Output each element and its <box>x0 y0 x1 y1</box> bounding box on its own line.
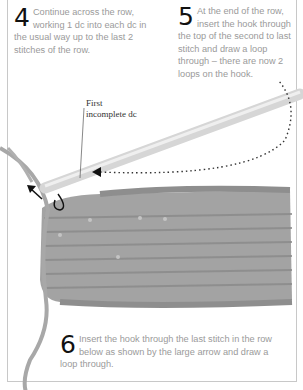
label-leader-line <box>80 108 84 178</box>
step-number: 4 <box>14 7 30 29</box>
step-text: Insert the hook through the last stitch … <box>60 334 272 369</box>
step-text: At the end of the row, insert the hook t… <box>178 6 291 79</box>
step-number: 5 <box>178 6 194 28</box>
step-number: 6 <box>60 334 76 356</box>
step-4: 4 Continue across the row, working 1 dc … <box>14 6 149 56</box>
step-6: 6 Insert the hook through the last stitc… <box>60 333 285 371</box>
stitch-label: First incomplete dc <box>86 98 137 120</box>
step-5: 5 At the end of the row, insert the hook… <box>178 5 296 81</box>
step-text: Continue across the row, working 1 dc in… <box>14 7 146 55</box>
